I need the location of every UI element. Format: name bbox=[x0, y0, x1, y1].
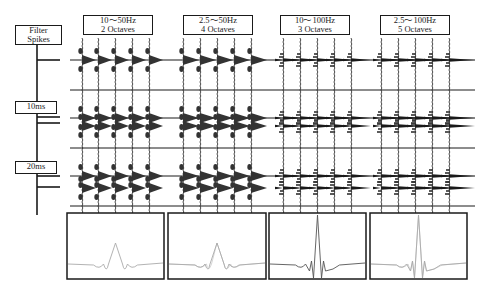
wavelet-sidelobe bbox=[296, 114, 301, 116]
wavelet-panel bbox=[370, 213, 467, 279]
wavelet-sidelobe bbox=[348, 111, 352, 113]
wavelet-lobe bbox=[449, 124, 475, 128]
wavelet-sidelobe bbox=[395, 111, 399, 113]
wavelet-sidelobe bbox=[230, 164, 234, 170]
wavelet-sidelobe bbox=[395, 62, 399, 64]
wavelet-sidelobe bbox=[331, 178, 335, 180]
wavelet-lobe bbox=[292, 125, 300, 127]
wavelet-sidelobe bbox=[446, 111, 450, 113]
wavelet-sidelobe bbox=[412, 178, 416, 180]
wavelet-lobe bbox=[326, 175, 334, 177]
wavelet-sidelobe bbox=[196, 114, 200, 120]
wavelet-sidelobe bbox=[280, 53, 284, 55]
wavelet-sidelobe bbox=[297, 178, 301, 180]
wavelet-sidelobe bbox=[297, 128, 301, 130]
wavelet-sidelobe bbox=[213, 114, 217, 120]
wavelet-lobe bbox=[115, 121, 129, 131]
wavelet-sidelobe bbox=[279, 172, 284, 174]
wavelet-lobe bbox=[183, 55, 199, 65]
wavelet-sidelobe bbox=[314, 53, 318, 55]
wavelet-lobe bbox=[373, 175, 381, 177]
wavelet-sidelobe bbox=[429, 128, 433, 130]
wavelet-lobe bbox=[82, 113, 96, 123]
wavelet-sidelobe bbox=[128, 164, 132, 170]
wavelet-lobe bbox=[309, 117, 317, 119]
wavelet-lobe bbox=[351, 186, 371, 190]
wavelet-sidelobe bbox=[378, 128, 382, 130]
wavelet-sidelobe bbox=[196, 194, 200, 200]
wavelet-lobe bbox=[251, 183, 267, 193]
panel-header-3-text: 3 Octaves bbox=[281, 25, 349, 34]
wavelet-lobe bbox=[373, 125, 381, 127]
wavelet-sidelobe bbox=[411, 122, 416, 124]
wavelet-panel bbox=[168, 213, 266, 279]
wavelet-sidelobe bbox=[230, 176, 234, 182]
wavelet-sidelobe bbox=[78, 106, 82, 112]
wavelet-sidelobe bbox=[296, 65, 301, 67]
panel-header-1: 10～50Hz2 Octaves bbox=[83, 15, 153, 35]
filter-spikes-label: FilterSpikes bbox=[15, 25, 62, 45]
wavelet-sidelobe bbox=[179, 106, 183, 112]
wavelet-sidelobe bbox=[446, 119, 450, 121]
wavelet-sidelobe bbox=[348, 190, 352, 192]
wavelet-sidelobe bbox=[279, 193, 284, 195]
wavelet-sidelobe bbox=[145, 66, 149, 72]
wavelet-sidelobe bbox=[446, 169, 450, 171]
wavelet-lobe bbox=[326, 117, 334, 119]
wavelet-sidelobe bbox=[331, 119, 335, 121]
wavelet-sidelobe bbox=[94, 106, 98, 112]
wavelet-sidelobe bbox=[347, 114, 352, 116]
wavelet-sidelobe bbox=[94, 194, 98, 200]
wavelet-sidelobe bbox=[331, 111, 335, 113]
wavelet-sidelobe bbox=[428, 184, 433, 186]
wavelet-sidelobe bbox=[213, 176, 217, 182]
wavelet-sidelobe bbox=[78, 48, 82, 54]
wavelet-sidelobe bbox=[213, 164, 217, 170]
wavelet-sidelobe bbox=[145, 164, 149, 170]
wavelet-sidelobe bbox=[378, 181, 382, 183]
wavelet-sidelobe bbox=[347, 184, 352, 186]
wavelet-resolution-diagram bbox=[0, 0, 484, 296]
wavelet-sidelobe bbox=[279, 122, 284, 124]
wavelet-sidelobe bbox=[78, 194, 82, 200]
wavelet-sidelobe bbox=[330, 122, 335, 124]
wavelet-sidelobe bbox=[394, 56, 399, 58]
wavelet-sidelobe bbox=[179, 164, 183, 170]
wavelet-lobe bbox=[275, 59, 283, 61]
wavelet-sidelobe bbox=[179, 66, 183, 72]
wavelet-sidelobe bbox=[348, 53, 352, 55]
wavelet-sidelobe bbox=[394, 65, 399, 67]
wavelet-sidelobe bbox=[330, 193, 335, 195]
wavelet-sidelobe bbox=[279, 56, 284, 58]
wavelet-sidelobe bbox=[445, 131, 450, 133]
wavelet-sidelobe bbox=[394, 114, 399, 116]
wavelet-sidelobe bbox=[313, 172, 318, 174]
panel-header-4: 2.5～100Hz5 Octaves bbox=[380, 15, 450, 35]
wavelet-sidelobe bbox=[280, 62, 284, 64]
wavelet-sidelobe bbox=[247, 176, 251, 182]
wavelet-sidelobe bbox=[429, 111, 433, 113]
spacing-10ms-label-text: 10ms bbox=[16, 102, 56, 111]
wavelet-sidelobe bbox=[412, 190, 416, 192]
wavelet-sidelobe bbox=[411, 65, 416, 67]
wavelet-sidelobe bbox=[428, 114, 433, 116]
wavelet-lobe bbox=[132, 113, 146, 123]
wavelet-lobe bbox=[115, 55, 129, 65]
wavelet-sidelobe bbox=[247, 48, 251, 54]
wavelet-lobe bbox=[449, 186, 475, 190]
wavelet-sidelobe bbox=[394, 172, 399, 174]
wavelet-lobe bbox=[449, 116, 475, 120]
wavelet-sidelobe bbox=[330, 184, 335, 186]
wavelet-sidelobe bbox=[94, 66, 98, 72]
wavelet-lobe bbox=[292, 59, 300, 61]
wavelet-sidelobe bbox=[279, 65, 284, 67]
wavelet-lobe bbox=[82, 183, 96, 193]
wavelet-sidelobe bbox=[412, 53, 416, 55]
wavelet-sidelobe bbox=[395, 128, 399, 130]
wavelet-sidelobe bbox=[145, 194, 149, 200]
panel-header-2: 2.5～50Hz4 Octaves bbox=[183, 15, 253, 35]
wavelet-sidelobe bbox=[412, 128, 416, 130]
wavelet-lobe bbox=[275, 117, 283, 119]
wavelet-sidelobe bbox=[145, 132, 149, 138]
wavelet-sidelobe bbox=[314, 178, 318, 180]
